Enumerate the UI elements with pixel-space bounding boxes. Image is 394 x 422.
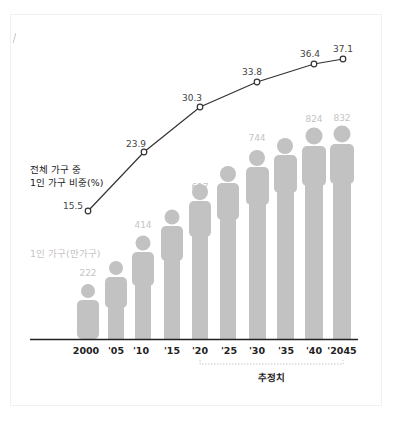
line-point-2045 [340, 56, 346, 62]
figure-2035 [274, 138, 297, 339]
bar-label-2010: 414 [134, 220, 151, 230]
line-label-2045: 37.1 [333, 44, 353, 54]
line-point-2020 [197, 104, 203, 110]
line-series-label-2: 1인 가구 비중(%) [30, 177, 104, 188]
line-label-2010: 23.9 [126, 139, 146, 149]
x-tick-2030: '30 [249, 345, 266, 356]
x-tick-2040: '40 [306, 345, 323, 356]
x-tick-labels: 2000 '05 '10 '15 '20 '25 '30 '35 '40 '20… [73, 345, 357, 356]
bar-label-2040: 824 [305, 114, 322, 124]
x-tick-2035: '35 [278, 345, 294, 356]
x-tick-2015: '15 [164, 345, 180, 356]
line-point-2030 [254, 79, 260, 85]
figure-2045 [330, 126, 354, 340]
bar-label-2030: 744 [248, 133, 265, 143]
line-point-2040 [311, 61, 317, 67]
figure-2040 [302, 128, 326, 340]
line-point-2010 [141, 149, 147, 155]
line-series-label-1: 전체 가구 중 [30, 164, 81, 175]
chart-canvas: 222 414 617 744 824 832 15.5 23.9 30.3 3… [0, 0, 394, 422]
bar-label-2000: 222 [79, 268, 96, 278]
estimate-bracket [200, 360, 343, 364]
estimate-label: 추정치 [258, 372, 285, 383]
figure-2015 [161, 210, 183, 340]
figure-2005 [105, 261, 127, 339]
line-label-2000: 15.5 [63, 201, 83, 211]
x-tick-2045: '2045 [327, 345, 356, 356]
x-tick-2025: '25 [221, 345, 237, 356]
pictogram-bars [77, 126, 354, 340]
x-tick-2005: '05 [108, 345, 124, 356]
line-label-2040: 36.4 [300, 49, 320, 59]
line-point-2000 [85, 208, 91, 214]
figure-2030 [246, 150, 269, 339]
x-tick-2000: 2000 [73, 345, 100, 356]
x-tick-2010: '10 [133, 345, 150, 356]
line-label-2030: 33.8 [242, 67, 262, 77]
line-label-2020: 30.3 [182, 93, 202, 103]
bar-label-2045: 832 [333, 113, 350, 123]
bar-label-2020: 617 [191, 182, 208, 192]
figure-2010 [132, 236, 154, 340]
figure-2025 [217, 166, 239, 339]
figure-2000 [77, 284, 99, 339]
bar-series-label: 1인 가구(만가구) [30, 248, 100, 259]
x-tick-2020: '20 [192, 345, 209, 356]
figure-2020 [189, 184, 211, 339]
